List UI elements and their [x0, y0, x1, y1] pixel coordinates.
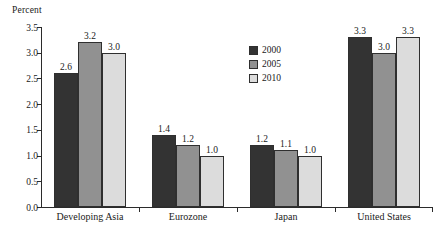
- bar[interactable]: 1.4: [152, 135, 176, 207]
- y-tick-label: 0.5: [26, 177, 38, 187]
- bars: 3.33.03.3: [335, 27, 433, 207]
- y-tick-label: 1.0: [26, 151, 38, 161]
- bars: 1.41.21.0: [139, 27, 237, 207]
- y-tick-label: 3.5: [26, 23, 38, 33]
- bar-group: 3.33.03.3United States: [335, 27, 433, 207]
- category-label: Developing Asia: [41, 211, 139, 223]
- legend-item[interactable]: 2000: [249, 44, 281, 56]
- y-tick-label: 2.0: [26, 100, 38, 110]
- legend-label: 2000: [262, 45, 281, 56]
- bar[interactable]: 1.2: [176, 145, 200, 207]
- bar[interactable]: 3.3: [396, 37, 420, 207]
- legend-swatch: [249, 74, 258, 83]
- bar-chart: Percent 0.00.51.01.52.02.53.03.5 2.63.23…: [0, 0, 441, 243]
- bar-value-label: 2.6: [60, 62, 72, 73]
- bar[interactable]: 1.0: [200, 156, 224, 207]
- legend: 200020052010: [249, 44, 281, 86]
- bar[interactable]: 1.0: [298, 156, 322, 207]
- y-axis-title: Percent: [12, 5, 42, 16]
- bar-group: 2.63.23.0Developing Asia: [41, 27, 139, 207]
- bar[interactable]: 3.2: [78, 42, 102, 207]
- bar[interactable]: 1.2: [250, 145, 274, 207]
- bar[interactable]: 1.1: [274, 150, 298, 207]
- legend-label: 2005: [262, 59, 281, 70]
- bar[interactable]: 2.6: [54, 73, 78, 207]
- legend-swatch: [249, 60, 258, 69]
- y-tick: 0.0: [41, 207, 42, 208]
- bar-value-label: 3.3: [354, 26, 366, 37]
- bars: 2.63.23.0: [41, 27, 139, 207]
- bar-value-label: 1.2: [182, 134, 194, 145]
- bar-value-label: 3.0: [108, 42, 120, 53]
- legend-label: 2010: [262, 73, 281, 84]
- plot-area: 0.00.51.01.52.02.53.03.5 2.63.23.0Develo…: [41, 27, 433, 207]
- bar[interactable]: 3.0: [372, 53, 396, 207]
- bar-group: 1.41.21.0Eurozone: [139, 27, 237, 207]
- category-label: Eurozone: [139, 211, 237, 223]
- y-tick-label: 2.5: [26, 74, 38, 84]
- legend-swatch: [249, 46, 258, 55]
- category-label: Japan: [237, 211, 335, 223]
- y-tick-label: 0.0: [26, 203, 38, 213]
- category-label: United States: [335, 211, 433, 223]
- y-tick-label: 1.5: [26, 125, 38, 135]
- bar-value-label: 1.2: [256, 134, 268, 145]
- y-tick-label: 3.0: [26, 48, 38, 58]
- bar-value-label: 1.0: [206, 145, 218, 156]
- bar-value-label: 1.4: [158, 124, 170, 135]
- bar-value-label: 1.0: [304, 145, 316, 156]
- legend-item[interactable]: 2010: [249, 72, 281, 84]
- bar[interactable]: 3.3: [348, 37, 372, 207]
- bar-value-label: 3.3: [402, 26, 414, 37]
- legend-item[interactable]: 2005: [249, 58, 281, 70]
- bar-value-label: 3.0: [378, 42, 390, 53]
- bar-value-label: 1.1: [280, 139, 292, 150]
- bar-value-label: 3.2: [84, 31, 96, 42]
- bar[interactable]: 3.0: [102, 53, 126, 207]
